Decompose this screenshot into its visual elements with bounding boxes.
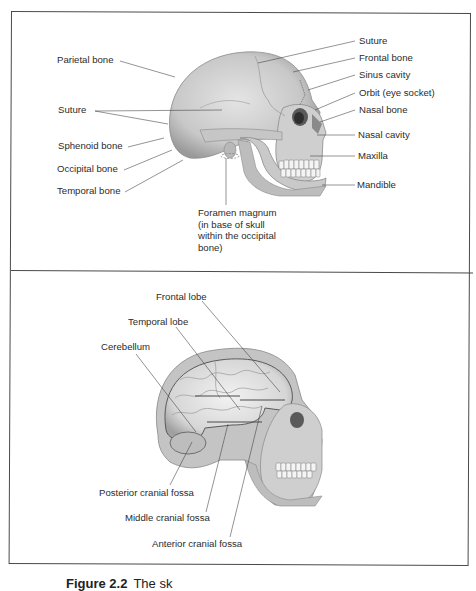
label-nasal-cavity: Nasal cavity: [358, 129, 410, 141]
label-temporal-bone: Temporal bone: [57, 185, 120, 197]
label-temporal-lobe: Temporal lobe: [128, 316, 188, 328]
figure-caption: Figure 2.2The sk: [66, 576, 172, 591]
label-suture-right: Suture: [359, 35, 387, 47]
label-foramen-magnum: Foramen magnum (in base of skull within …: [198, 207, 276, 253]
label-cerebellum: Cerebellum: [101, 341, 150, 353]
skull-lateral: [169, 52, 326, 196]
label-anterior-cranial-fossa: Anterior cranial fossa: [152, 538, 242, 550]
label-frontal-bone: Frontal bone: [359, 52, 413, 64]
brain-in-skull: [156, 348, 322, 506]
label-posterior-cranial-fossa: Posterior cranial fossa: [99, 487, 194, 499]
label-maxilla: Maxilla: [358, 150, 388, 162]
label-occipital-bone: Occipital bone: [57, 163, 118, 175]
label-orbit: Orbit (eye socket): [359, 87, 435, 99]
label-frontal-lobe: Frontal lobe: [156, 291, 207, 303]
label-sphenoid-bone: Sphenoid bone: [58, 140, 123, 152]
figure-caption-text: The sk: [133, 576, 172, 591]
label-middle-cranial-fossa: Middle cranial fossa: [125, 512, 210, 524]
foramen-line-2: (in base of skull: [198, 219, 276, 231]
label-nasal-bone: Nasal bone: [359, 104, 408, 116]
foramen-line-3: within the occipital: [198, 230, 276, 242]
foramen-line-1: Foramen magnum: [198, 207, 276, 219]
figure-number: Figure 2.2: [66, 576, 127, 591]
label-mandible: Mandible: [357, 179, 396, 191]
foramen-line-4: bone): [198, 242, 276, 254]
label-parietal-bone: Parietal bone: [57, 54, 114, 66]
label-suture-left: Suture: [58, 104, 86, 116]
label-sinus-cavity: Sinus cavity: [359, 69, 410, 81]
